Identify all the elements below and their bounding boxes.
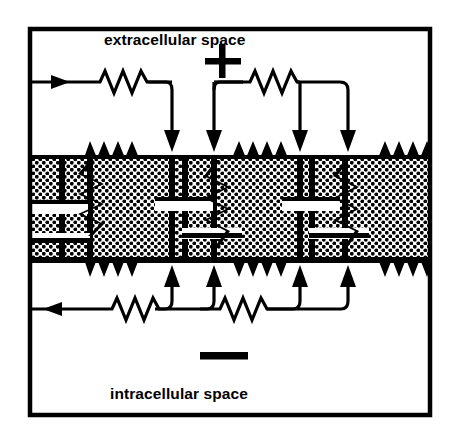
rise-arrow-1 bbox=[164, 265, 180, 287]
intracellular-branch-rises bbox=[155, 265, 356, 309]
intracellular-space-label: intracellular space bbox=[110, 385, 248, 403]
branch-arrow-4 bbox=[340, 130, 356, 152]
extracellular-branch-drops bbox=[148, 82, 356, 152]
branch-arrow-1 bbox=[164, 130, 180, 152]
minus-sign-symbol bbox=[200, 352, 248, 360]
extracellular-resistor-2 bbox=[243, 71, 300, 93]
rise-arrow-3 bbox=[292, 265, 308, 287]
extracellular-space-label: extracellular space bbox=[104, 31, 246, 49]
circuit-canvas bbox=[0, 0, 459, 447]
branch-arrow-3 bbox=[292, 130, 308, 152]
equivalent-circuit-figure: extracellular space intracellular space bbox=[0, 0, 459, 447]
rise-arrow-2 bbox=[206, 265, 222, 287]
extracellular-flow-arrow bbox=[51, 75, 70, 89]
branch-arrow-2 bbox=[206, 130, 222, 152]
plus-sign-symbol bbox=[205, 44, 241, 78]
rise-arrow-4 bbox=[340, 265, 356, 287]
intracellular-flow-arrow bbox=[43, 302, 62, 316]
